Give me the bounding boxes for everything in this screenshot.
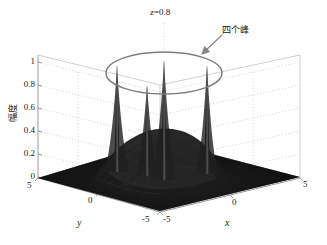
annotation-arrow xyxy=(203,35,222,53)
spike-1 xyxy=(105,66,129,172)
y-axis-label: y xyxy=(77,218,81,228)
z-level-label: z=0.8 xyxy=(150,8,170,17)
z-tick-0p2: 0.2 xyxy=(14,149,35,158)
y-tick-minus5: -5 xyxy=(142,215,150,224)
x-tick-minus5: -5 xyxy=(163,215,171,224)
z-tick-0p4: 0.4 xyxy=(14,126,35,135)
y-tick-5: 5 xyxy=(27,181,32,190)
plot-canvas xyxy=(0,0,327,245)
x-axis-label: x xyxy=(225,218,229,228)
top-left-edge xyxy=(38,55,160,85)
y-tick-0: 0 xyxy=(88,196,93,205)
z-axis-ticks xyxy=(38,62,42,178)
top-right-edge xyxy=(160,55,300,85)
spike-4 xyxy=(196,66,218,174)
z-tick-0p8: 0.8 xyxy=(14,80,35,89)
z-axis-label: 幅度 xyxy=(9,99,18,127)
spike-group xyxy=(105,61,218,187)
z-tick-1: 1 xyxy=(20,57,35,66)
x-tick-0: 0 xyxy=(232,198,237,207)
peaks-annotation-label: 四个峰 xyxy=(222,26,249,35)
figure-3d-surface-plot: z=0.8 四个峰 1 0.8 0.6 0.4 0.2 0 幅度 5 0 -5 … xyxy=(0,0,327,245)
spike-3 xyxy=(151,61,177,180)
x-tick-5: 5 xyxy=(303,180,308,189)
